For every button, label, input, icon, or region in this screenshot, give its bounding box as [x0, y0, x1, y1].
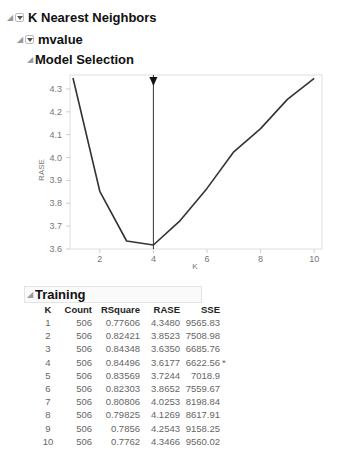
table-row: 95060.78564.25439158.25	[42, 422, 232, 435]
cell-rase: 3.7244	[140, 369, 180, 382]
column-header-flag	[220, 303, 232, 316]
cell-k: 10	[42, 435, 54, 448]
cell-rsquare: 0.83569	[92, 369, 140, 382]
y-tick-label: 4.3	[49, 84, 62, 94]
cell-rsquare: 0.84496	[92, 356, 140, 369]
table-row: 75060.808064.02538198.84	[42, 395, 232, 408]
disclosure-triangle-icon[interactable]: ◢	[25, 290, 35, 299]
cell-rsquare: 0.79825	[92, 408, 140, 421]
cell-best-flag	[220, 369, 232, 382]
outline-training: ◢ Training	[24, 286, 202, 303]
cell-rase: 4.1269	[140, 408, 180, 421]
cell-count: 506	[54, 395, 92, 408]
x-axis: 246810	[97, 249, 319, 264]
y-tick-label: 3.6	[49, 244, 62, 254]
cell-sse: 8617.91	[180, 408, 220, 421]
y-tick-label: 4.0	[49, 153, 62, 163]
column-header-k: K	[42, 303, 54, 316]
table-row: 35060.843483.63506685.76	[42, 342, 232, 355]
column-header-count: Count	[54, 303, 92, 316]
column-header-sse: SSE	[180, 303, 220, 316]
table-row: 65060.823033.86527559.67	[42, 382, 232, 395]
training-table: K Count RSquare RASE SSE 15060.776064.34…	[42, 303, 232, 448]
cell-sse: 9158.25	[180, 422, 220, 435]
cell-count: 506	[54, 342, 92, 355]
y-tick-label: 3.8	[49, 198, 62, 208]
plot-frame	[70, 75, 322, 249]
cell-rsquare: 0.82303	[92, 382, 140, 395]
cell-rase: 3.8523	[140, 329, 180, 342]
cell-best-flag	[220, 316, 232, 329]
cell-count: 506	[54, 316, 92, 329]
column-header-rase: RASE	[140, 303, 180, 316]
cell-sse: 6685.76	[180, 342, 220, 355]
cell-rase: 4.3480	[140, 316, 180, 329]
cell-rsquare: 0.7856	[92, 422, 140, 435]
y-axis-label: RASE	[37, 159, 46, 181]
cell-rsquare: 0.80806	[92, 395, 140, 408]
rase-vs-k-chart: 3.63.73.83.94.04.14.24.3 246810 RASE K	[0, 0, 342, 290]
cell-sse: 6622.56	[180, 356, 220, 369]
cell-count: 506	[54, 329, 92, 342]
y-tick-label: 4.2	[49, 107, 62, 117]
cell-sse: 7508.98	[180, 329, 220, 342]
table-row: 55060.835693.72447018.9	[42, 369, 232, 382]
y-axis: 3.63.73.83.94.04.14.24.3	[49, 84, 70, 254]
table-row: 105060.77624.34669560.02	[42, 435, 232, 448]
cell-k: 9	[42, 422, 54, 435]
table-row: 45060.844963.61776622.56*	[42, 356, 232, 369]
cell-sse: 8198.84	[180, 395, 220, 408]
cell-rsquare: 0.77606	[92, 316, 140, 329]
y-tick-label: 3.7	[49, 221, 62, 231]
cell-rsquare: 0.7762	[92, 435, 140, 448]
cell-k: 8	[42, 408, 54, 421]
cell-best-flag	[220, 329, 232, 342]
cell-sse: 9565.83	[180, 316, 220, 329]
cell-sse: 7018.9	[180, 369, 220, 382]
cell-sse: 9560.02	[180, 435, 220, 448]
x-tick-label: 10	[309, 254, 319, 264]
cell-count: 506	[54, 422, 92, 435]
outline-title: Training	[35, 287, 86, 302]
cell-rsquare: 0.84348	[92, 342, 140, 355]
cell-best-flag	[220, 382, 232, 395]
cell-best-flag	[220, 395, 232, 408]
cell-k: 5	[42, 369, 54, 382]
table-row: 85060.798254.12698617.91	[42, 408, 232, 421]
cell-best-flag	[220, 435, 232, 448]
cell-rase: 4.2543	[140, 422, 180, 435]
y-tick-label: 3.9	[49, 175, 62, 185]
cell-best-flag	[220, 422, 232, 435]
cell-k: 1	[42, 316, 54, 329]
cell-best-flag	[220, 408, 232, 421]
y-tick-label: 4.1	[49, 130, 62, 140]
cell-count: 506	[54, 382, 92, 395]
cell-rase: 3.8652	[140, 382, 180, 395]
cell-k: 3	[42, 342, 54, 355]
cell-count: 506	[54, 435, 92, 448]
cell-k: 7	[42, 395, 54, 408]
cell-count: 506	[54, 356, 92, 369]
cell-best-flag	[220, 342, 232, 355]
cell-sse: 7559.67	[180, 382, 220, 395]
cell-count: 506	[54, 408, 92, 421]
cell-count: 506	[54, 369, 92, 382]
table-row: 15060.776064.34809565.83	[42, 316, 232, 329]
x-tick-label: 2	[97, 254, 102, 264]
x-tick-label: 4	[151, 254, 156, 264]
cell-rase: 4.3466	[140, 435, 180, 448]
cell-rase: 4.0253	[140, 395, 180, 408]
x-tick-label: 6	[204, 254, 209, 264]
x-axis-label: K	[192, 262, 198, 271]
cell-rase: 3.6177	[140, 356, 180, 369]
table-row: 25060.824213.85237508.98	[42, 329, 232, 342]
table-header-row: K Count RSquare RASE SSE	[42, 303, 232, 316]
x-tick-label: 8	[258, 254, 263, 264]
column-header-rsquare: RSquare	[92, 303, 140, 316]
cell-k: 2	[42, 329, 54, 342]
cell-best-flag: *	[220, 356, 232, 369]
cell-rsquare: 0.82421	[92, 329, 140, 342]
cell-rase: 3.6350	[140, 342, 180, 355]
cell-k: 4	[42, 356, 54, 369]
cell-k: 6	[42, 382, 54, 395]
